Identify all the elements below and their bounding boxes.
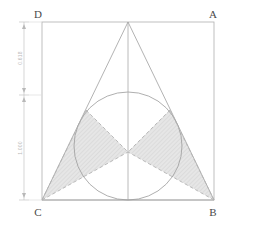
arrow-mid-down xyxy=(22,97,26,102)
dimension-upper-label: 0.618 xyxy=(17,51,23,65)
vertex-label-b: B xyxy=(209,206,216,218)
arrow-bottom xyxy=(22,193,26,198)
arrow-mid-up xyxy=(22,88,26,93)
vertex-label-c: C xyxy=(34,206,41,218)
shade-right-upper-hatch xyxy=(128,110,214,200)
geometry-diagram: 0.618 1.000 D A C B xyxy=(0,0,254,225)
shade-left-upper-hatch xyxy=(42,110,128,200)
arrow-top xyxy=(22,24,26,29)
vertex-label-a: A xyxy=(209,8,217,20)
dimension-lower-label: 1.000 xyxy=(17,141,23,155)
vertex-label-d: D xyxy=(34,8,42,20)
dimension-stack xyxy=(19,22,42,200)
